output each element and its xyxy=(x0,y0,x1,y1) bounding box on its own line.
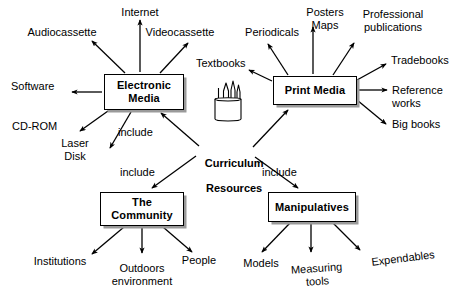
link-label-include-3: include xyxy=(262,166,297,179)
leaf-label-reference-works: Reference works xyxy=(392,84,458,109)
leaf-label-measuring-tools: Measuring tools xyxy=(283,260,351,290)
concept-map-diagram: Curriculum Resources Electronic Media Pr… xyxy=(0,0,463,293)
leaf-label-cd-rom: CD-ROM xyxy=(12,120,68,133)
leaf-label-internet: Internet xyxy=(110,6,170,19)
node-label-electronic-media: Electronic Media xyxy=(105,79,183,105)
link-label-include-2: include xyxy=(120,166,155,179)
node-electronic-media[interactable]: Electronic Media xyxy=(104,74,184,110)
leaf-label-videocassette: Videocassette xyxy=(140,26,220,39)
center-node-curriculum-resources: Curriculum Resources xyxy=(189,144,267,207)
leaf-label-big-books: Big books xyxy=(392,118,458,131)
node-manipulatives[interactable]: Manipulatives xyxy=(268,192,356,222)
leaf-label-professional-publications: Professional publications xyxy=(354,8,432,33)
edge-group-community xyxy=(92,227,192,254)
edge-group-manipulatives xyxy=(262,223,360,252)
center-label-line1: Curriculum xyxy=(205,157,264,169)
leaf-label-laser-disk: Laser Disk xyxy=(55,137,95,162)
leaf-label-tradebooks: Tradebooks xyxy=(391,54,463,67)
leaf-label-models: Models xyxy=(237,257,285,270)
leaf-label-posters-maps: Posters Maps xyxy=(300,6,350,31)
node-print-media[interactable]: Print Media xyxy=(273,76,357,105)
node-the-community[interactable]: The Community xyxy=(100,192,184,226)
node-label-manipulatives: Manipulatives xyxy=(275,201,349,214)
leaf-label-institutions: Institutions xyxy=(27,255,93,268)
link-label-include-1: include xyxy=(118,126,153,139)
center-label-line2: Resources xyxy=(206,182,262,194)
leaf-label-audiocassette: Audiocassette xyxy=(22,26,102,39)
pencil-cup-icon xyxy=(206,78,250,124)
leaf-label-textbooks: Textbooks xyxy=(196,57,256,70)
leaf-label-people: People xyxy=(176,254,222,267)
leaf-label-outdoors-environment: Outdoors environment xyxy=(100,262,184,287)
leaf-label-periodicals: Periodicals xyxy=(240,26,304,39)
leaf-label-software: Software xyxy=(11,80,67,93)
node-label-the-community: The Community xyxy=(101,196,183,222)
node-label-print-media: Print Media xyxy=(285,84,345,97)
